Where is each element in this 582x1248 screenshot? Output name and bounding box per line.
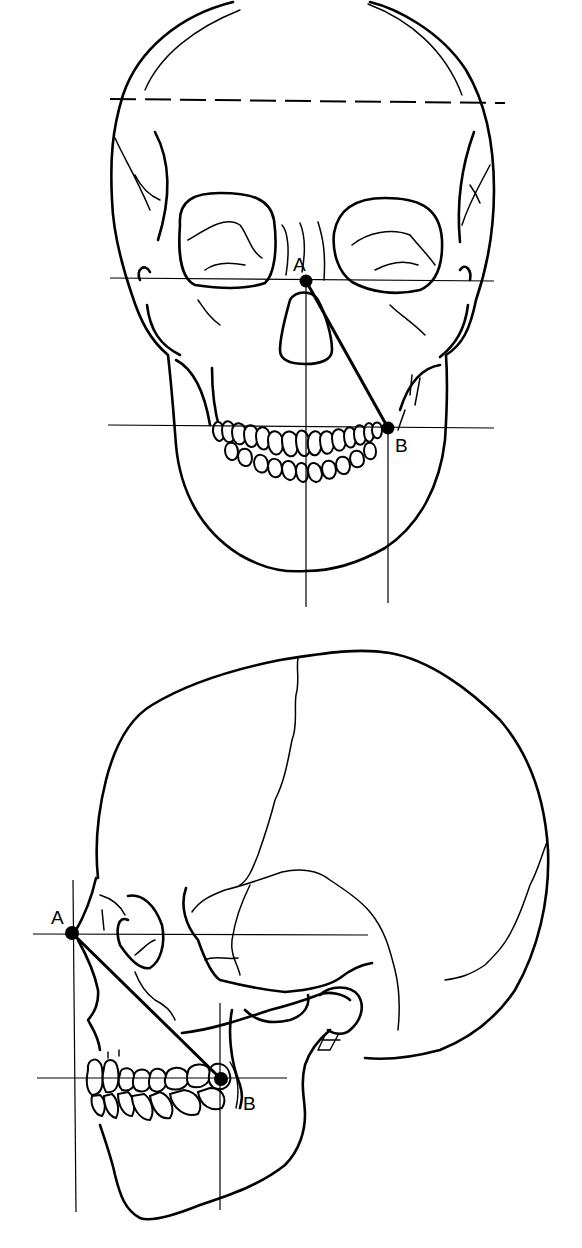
lateral-horizontal-line-a xyxy=(33,934,368,935)
lateral-point-b xyxy=(214,1072,228,1086)
lambdoid-suture xyxy=(445,842,547,980)
lateral-skull-view: A B xyxy=(0,0,582,1248)
squamous-suture xyxy=(192,870,399,1030)
ramus-anterior xyxy=(230,1010,242,1108)
sphenoid-suture xyxy=(205,885,250,975)
lateral-b-bracket xyxy=(230,1062,238,1108)
anatomical-figure: A B xyxy=(0,0,582,1248)
lateral-orbit-detail xyxy=(100,895,155,955)
mandible-outline xyxy=(100,1030,330,1219)
lateral-cranium-outline xyxy=(97,651,549,1059)
lateral-label-a: A xyxy=(51,907,64,928)
temporal-ridge-lateral xyxy=(183,888,372,992)
coronal-suture xyxy=(240,658,298,885)
nasal-profile xyxy=(75,878,100,1050)
lateral-label-b: B xyxy=(243,1093,256,1114)
lateral-orbit xyxy=(118,896,164,969)
mandible-root-marks xyxy=(108,1050,119,1058)
lateral-point-a xyxy=(65,926,79,940)
lateral-measurement-line-ab xyxy=(72,933,221,1079)
zygomatic-arch xyxy=(182,993,350,1033)
